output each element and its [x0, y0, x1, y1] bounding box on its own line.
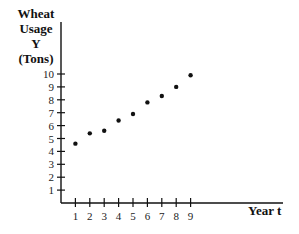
x-tick-label: 6	[145, 210, 151, 222]
data-point	[160, 94, 164, 98]
data-point	[188, 73, 192, 77]
y-tick-label: 2	[49, 171, 55, 183]
x-ticks: 123456789	[73, 198, 194, 222]
x-tick-label: 1	[73, 210, 79, 222]
data-point	[73, 141, 77, 145]
y-tick-label: 5	[49, 133, 55, 145]
data-point	[131, 112, 135, 116]
x-tick-label: 8	[173, 210, 179, 222]
y-tick-label: 6	[49, 120, 55, 132]
x-axis-label: Year t	[248, 203, 281, 219]
y-tick-label: 7	[49, 107, 55, 119]
y-tick-label: 4	[49, 145, 55, 157]
y-tick-label: 8	[49, 94, 55, 106]
data-point	[174, 85, 178, 89]
x-tick-label: 4	[116, 210, 122, 222]
data-point	[88, 131, 92, 135]
x-tick-label: 5	[130, 210, 136, 222]
y-tick-label: 9	[49, 81, 55, 93]
data-point	[145, 100, 149, 104]
x-tick-label: 7	[159, 210, 165, 222]
data-point	[102, 129, 106, 133]
x-tick-label: 3	[101, 210, 107, 222]
y-tick-label: 3	[49, 158, 55, 170]
scatter-plot: 12345678910 123456789	[0, 0, 299, 234]
y-tick-label: 10	[43, 68, 55, 80]
x-tick-label: 2	[87, 210, 93, 222]
data-points	[73, 73, 193, 146]
x-tick-label: 9	[188, 210, 194, 222]
y-tick-label: 1	[49, 184, 55, 196]
data-point	[116, 118, 120, 122]
